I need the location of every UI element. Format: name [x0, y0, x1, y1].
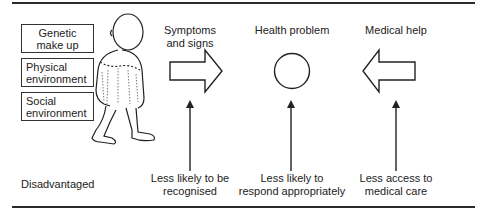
label-line: Less likely to be — [140, 172, 240, 185]
right-arrow-icon — [170, 50, 222, 92]
walking-boy-icon — [92, 14, 155, 144]
left-arrow-icon — [363, 50, 415, 92]
up-arrow-icon — [287, 100, 295, 171]
access-label: Less access to medical care — [350, 172, 442, 198]
label-line: Less likely to — [236, 172, 348, 185]
label-line: medical care — [350, 185, 442, 198]
stage-label-line: Medical help — [356, 24, 436, 37]
circle-icon — [275, 54, 310, 89]
up-arrow-icon — [186, 100, 194, 171]
stage-label-line: Symptoms — [150, 24, 230, 37]
stage-label-health: Health problem — [250, 24, 334, 37]
label-line: Less access to — [350, 172, 442, 185]
up-arrow-icon — [392, 100, 400, 171]
respond-label: Less likely to respond appropriately — [236, 172, 348, 198]
stage-label-line: and signs — [150, 37, 230, 50]
stage-label-medical: Medical help — [356, 24, 436, 37]
recognised-label: Less likely to be recognised — [140, 172, 240, 198]
label-line: recognised — [140, 185, 240, 198]
label-line: respond appropriately — [236, 185, 348, 198]
disadvantaged-label: Disadvantaged — [21, 178, 94, 191]
stage-label-line: Health problem — [250, 24, 334, 37]
stage-label-symptoms: Symptoms and signs — [150, 24, 230, 50]
